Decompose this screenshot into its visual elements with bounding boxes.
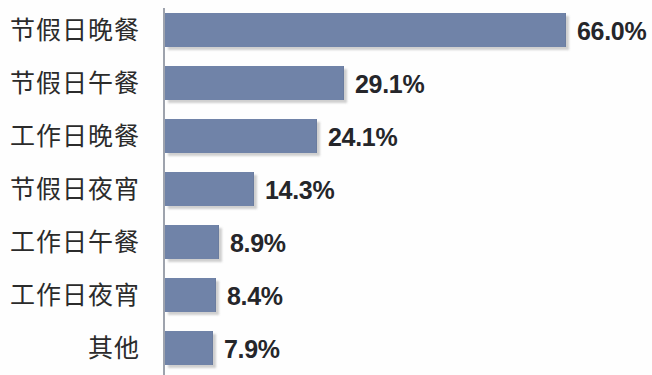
bar[interactable]	[165, 119, 317, 153]
bar-row: 工作日晚餐 24.1%	[0, 110, 652, 163]
bar-row: 工作日午餐 8.9%	[0, 216, 652, 269]
bar-value-label: 66.0%	[577, 16, 646, 45]
bar-container: 29.1%	[165, 66, 343, 102]
bar-container: 66.0%	[165, 13, 565, 49]
bar-value-label: 29.1%	[355, 69, 424, 98]
bar-container: 7.9%	[165, 331, 212, 367]
bar[interactable]	[165, 278, 216, 312]
bar[interactable]	[165, 331, 213, 365]
bar-container: 24.1%	[165, 119, 316, 155]
bar-row: 节假日午餐 29.1%	[0, 57, 652, 110]
category-label: 其他	[0, 335, 140, 363]
category-label: 工作日夜宵	[0, 282, 140, 310]
bar-row: 其他 7.9%	[0, 322, 652, 375]
category-label: 节假日午餐	[0, 70, 140, 98]
category-label: 节假日晚餐	[0, 17, 140, 45]
bar-value-label: 14.3%	[265, 175, 334, 204]
bar[interactable]	[165, 66, 344, 100]
bar-value-label: 7.9%	[224, 334, 280, 363]
bar-row: 节假日夜宵 14.3%	[0, 163, 652, 216]
bar[interactable]	[165, 225, 219, 259]
bar-value-label: 8.4%	[227, 281, 283, 310]
bar[interactable]	[165, 172, 254, 206]
bar-value-label: 24.1%	[328, 122, 397, 151]
bar-container: 8.9%	[165, 225, 218, 261]
category-label: 工作日午餐	[0, 229, 140, 257]
bar-row: 工作日夜宵 8.4%	[0, 269, 652, 322]
bar-container: 8.4%	[165, 278, 215, 314]
bar-container: 14.3%	[165, 172, 253, 208]
bar-row: 节假日晚餐 66.0%	[0, 4, 652, 57]
bar-value-label: 8.9%	[230, 228, 286, 257]
bar-chart: 节假日晚餐 66.0% 节假日午餐 29.1% 工作日晚餐 24.1% 节假日夜…	[0, 0, 652, 375]
bar[interactable]	[165, 13, 566, 47]
bar-rows: 节假日晚餐 66.0% 节假日午餐 29.1% 工作日晚餐 24.1% 节假日夜…	[0, 0, 652, 375]
category-label: 节假日夜宵	[0, 176, 140, 204]
category-label: 工作日晚餐	[0, 123, 140, 151]
